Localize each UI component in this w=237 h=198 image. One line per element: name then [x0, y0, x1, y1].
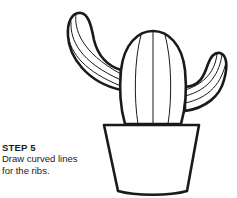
right-arm: [185, 53, 226, 111]
cactus-body: [120, 31, 186, 124]
instruction-caption: STEP 5 Draw curved lines for the ribs.: [2, 142, 102, 176]
left-arm: [68, 13, 121, 90]
step-label: STEP 5: [2, 142, 102, 153]
step-description-line-1: Draw curved lines: [2, 153, 102, 165]
flower-pot: [104, 125, 199, 195]
step-description-line-2: for the ribs.: [2, 165, 102, 177]
